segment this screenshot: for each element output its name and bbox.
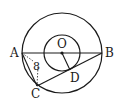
label-o: O xyxy=(57,37,67,51)
measurement-label: 8 xyxy=(33,60,40,73)
label-b: B xyxy=(105,46,114,60)
center-point-o xyxy=(60,51,63,54)
radius-od xyxy=(62,53,70,70)
label-c: C xyxy=(31,87,40,101)
geometry-diagram: A B O C D 8 xyxy=(0,0,118,106)
label-d: D xyxy=(70,71,80,85)
label-a: A xyxy=(9,46,19,60)
